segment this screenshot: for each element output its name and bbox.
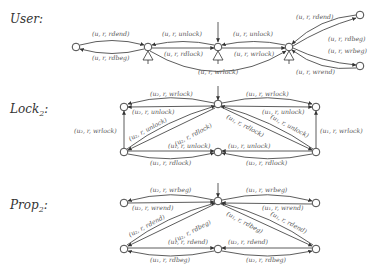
edge-label: (u₂, r, wrend) [132, 204, 174, 211]
user-section-label: User: [10, 12, 43, 26]
edge-label: (u₁, r, wrlock) [320, 127, 363, 134]
state-node [356, 62, 364, 70]
automata-diagram: User: (u, r, rdend) ( [0, 0, 377, 278]
edge-label: (u, r, unlock) [233, 30, 273, 37]
state-node [120, 148, 128, 156]
edge-label: (u, r, rdbeg) [92, 54, 130, 62]
edge [222, 98, 312, 104]
state-node [144, 43, 152, 51]
state-node [356, 11, 364, 19]
edge-label: (u, r, rdend) [296, 13, 334, 20]
edge-label: (u₂, r, rdbeg) [246, 256, 287, 264]
edge-label: (u₂, r, wrlock) [74, 127, 117, 134]
edge-label: (u₂, r, rdlock) [246, 159, 288, 166]
edge-label: (u₁, r, rdbeg) [225, 210, 265, 236]
edge-label: (u, r, rdbeg) [328, 35, 366, 43]
edge-label: (u₁, r, wrlock) [246, 90, 289, 97]
prop2-automaton: Prop2: (u₂, r, wrbeg) (u₂, r, wrend) (u₁… [9, 183, 320, 264]
edge-label: (u₂, r, unlock) [127, 116, 168, 142]
state-node [312, 148, 320, 156]
edge-label: (u₂, r, wrbeg) [150, 186, 192, 194]
state-node [72, 43, 80, 51]
edge-label: (u₁, r, unlock) [262, 108, 305, 115]
prop2-section-label: Prop2: [9, 198, 48, 214]
state-node [120, 103, 128, 111]
edge [152, 42, 214, 46]
edge-label: (u, r, wrlock) [234, 50, 275, 57]
edge-label: (u₁, r, unlock) [168, 142, 211, 149]
state-node [285, 43, 293, 51]
edge-label: (u₁, r, rdbeg) [150, 256, 191, 264]
accepting-marker [284, 51, 294, 64]
state-node [120, 245, 128, 253]
state-node [214, 100, 222, 108]
edge-label: (u₁, r, wrbeg) [246, 186, 288, 194]
lock2-section-label: Lock2: [9, 102, 48, 118]
edge [128, 153, 214, 159]
edge [128, 195, 214, 201]
edge-label: (u₁, r, rdlock) [150, 159, 192, 166]
edge [222, 195, 312, 201]
edge-label: (u₂, r, rdend) [228, 238, 269, 245]
edge [128, 98, 214, 104]
edge-label: (u, r, unlock) [162, 30, 202, 37]
edge-label: (u₁, r, rdend) [270, 210, 309, 235]
edge-label: (u₂, r, unlock) [228, 142, 271, 149]
edge-label: (u, r, wrend) [296, 68, 335, 75]
state-node [120, 199, 128, 207]
state-node [214, 245, 222, 253]
edge [128, 106, 214, 107]
edge-label: (u, r, wrbeg) [328, 47, 367, 55]
state-node [214, 43, 222, 51]
edge-label: (u₁, r, rdend) [168, 238, 209, 245]
edge-label: (u, r, wrlock) [198, 68, 239, 75]
accepting-marker [143, 51, 153, 64]
edge-label: (u₁, r, unlock) [270, 113, 311, 139]
edge-label: (u, r, rdend) [92, 30, 130, 37]
edge-label: (u₁, r, wrend) [262, 204, 304, 211]
user-automaton: User: (u, r, rdend) ( [10, 11, 367, 75]
edge [222, 42, 285, 46]
edge [222, 153, 312, 159]
state-node [214, 197, 222, 205]
edge-label: (u₂, r, rdend) [127, 213, 166, 238]
edge [80, 49, 144, 54]
edge [128, 202, 214, 203]
state-node [312, 245, 320, 253]
edge-label: (u₂, r, unlock) [132, 108, 175, 115]
edge-label: (u₂, r, wrlock) [150, 90, 193, 97]
edge-label: (u, r, rdlock) [164, 50, 203, 57]
state-node [312, 103, 320, 111]
state-node [214, 148, 222, 156]
lock2-automaton: Lock2: (u₂, r, wrlock) (u₂, r, unlock) (… [9, 86, 363, 166]
accepting-marker [213, 51, 223, 64]
edge [80, 41, 144, 46]
edge [222, 106, 312, 107]
state-node [312, 199, 320, 207]
